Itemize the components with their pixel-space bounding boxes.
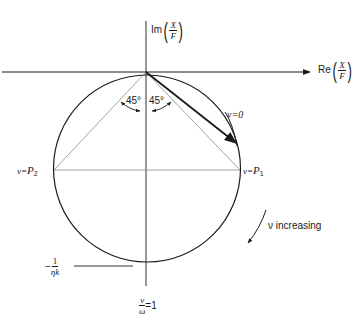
real-axis-label: Re(XF) (318, 60, 353, 81)
resonance-label: νω=1 (139, 295, 157, 316)
response-circle (54, 75, 241, 262)
start-point-label: ν=0 (227, 110, 243, 120)
p2-symbol: P (27, 164, 34, 176)
min-numerator: 1 (52, 256, 59, 267)
resonance-value: =1 (145, 300, 156, 311)
re-text: Re (318, 64, 331, 75)
direction-label: ν increasing (268, 221, 321, 231)
angle-label-right: 45° (149, 96, 164, 106)
direction-arrow (248, 210, 266, 243)
half-power-left-label: ν=P2 (17, 165, 38, 177)
p1-prefix: ν= (243, 166, 253, 176)
min-value-label: −1ηk (45, 256, 59, 277)
re-numerator: X (338, 60, 346, 71)
im-denominator: F (170, 31, 176, 41)
p2-subscript: 2 (34, 170, 38, 177)
imaginary-axis-label: Im(XF) (151, 20, 184, 41)
min-denominator: ηk (51, 267, 59, 277)
p2-prefix: ν= (17, 166, 27, 176)
im-text: Im (151, 24, 162, 35)
direction-text: ν increasing (268, 220, 321, 231)
im-numerator: X (169, 20, 177, 31)
p1-symbol: P (253, 164, 260, 176)
response-vector (146, 72, 236, 143)
p1-subscript: 1 (260, 170, 264, 177)
half-power-right-label: ν=P1 (243, 165, 264, 177)
angle-label-left: 45° (126, 96, 141, 106)
left-45-line (54, 72, 146, 170)
re-denominator: F (339, 71, 345, 81)
